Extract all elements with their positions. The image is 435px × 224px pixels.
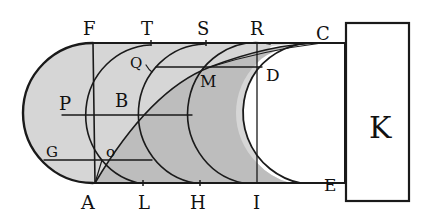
label-B: B (115, 90, 128, 111)
label-F: F (83, 18, 96, 39)
label-T: T (141, 18, 153, 39)
label-I: I (253, 192, 260, 213)
white-crescent (243, 43, 345, 183)
label-D: D (266, 65, 280, 85)
label-G: G (46, 143, 58, 161)
label-M: M (200, 72, 216, 91)
label-C: C (316, 23, 330, 44)
label-A: A (80, 191, 95, 213)
label-P: P (59, 93, 71, 114)
label-K: K (369, 110, 392, 145)
label-Q: Q (130, 54, 142, 72)
geometric-diagram: F T S R C Q M D P B G o A L H I E K (0, 0, 435, 224)
label-H: H (190, 192, 206, 213)
label-R: R (250, 18, 264, 39)
label-E: E (324, 175, 336, 195)
label-S: S (197, 18, 209, 39)
label-o: o (106, 143, 115, 161)
label-L: L (138, 192, 150, 213)
